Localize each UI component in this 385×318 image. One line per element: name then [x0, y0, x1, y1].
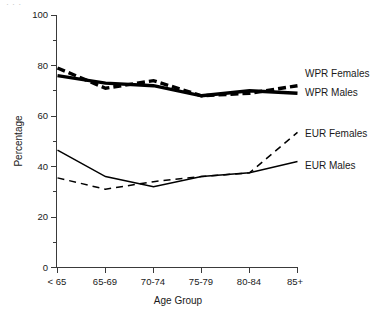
- y-tick-label-60: 60: [37, 110, 48, 121]
- x-tick-label-65-69: 65-69: [93, 276, 117, 287]
- y-tick-label-80: 80: [37, 60, 48, 71]
- x-tick-label-85-plus: 85+: [287, 276, 304, 287]
- series-paths: [58, 68, 298, 189]
- x-tick-label-under-65: < 65: [48, 276, 67, 287]
- y-axis-title: Percentage: [13, 115, 24, 167]
- x-tick-label-75-79: 75-79: [189, 276, 213, 287]
- series-labels: WPR Females WPR Males EUR Females EUR Ma…: [305, 68, 369, 171]
- line-chart-canvas: 0 20 40 60 80 100 < 65 65-69 70-74 75-79…: [0, 0, 385, 318]
- x-axis-tick-labels: < 65 65-69 70-74 75-79 80-84 85+: [48, 276, 304, 287]
- series-line-eur-males: [58, 150, 298, 187]
- x-tick-label-70-74: 70-74: [141, 276, 165, 287]
- series-label-eur-males: EUR Males: [305, 160, 356, 171]
- y-axis-minor-ticks: [53, 40, 57, 242]
- axis-lines: [57, 15, 299, 268]
- chart-figure: · · · 0 20 40: [0, 0, 385, 318]
- y-tick-label-20: 20: [37, 211, 48, 222]
- x-tick-label-80-84: 80-84: [237, 276, 261, 287]
- series-label-wpr-males: WPR Males: [305, 87, 358, 98]
- series-label-eur-females: EUR Females: [305, 128, 367, 139]
- series-line-eur-females: [58, 132, 298, 189]
- y-tick-label-0: 0: [43, 262, 48, 273]
- y-axis-tick-labels: 0 20 40 60 80 100: [32, 9, 48, 273]
- y-tick-label-100: 100: [32, 9, 48, 20]
- x-axis-title: Age Group: [154, 295, 203, 306]
- series-label-wpr-females: WPR Females: [305, 68, 369, 79]
- series-line-wpr-males: [58, 76, 298, 96]
- x-axis-ticks: [58, 268, 298, 274]
- y-tick-label-40: 40: [37, 161, 48, 172]
